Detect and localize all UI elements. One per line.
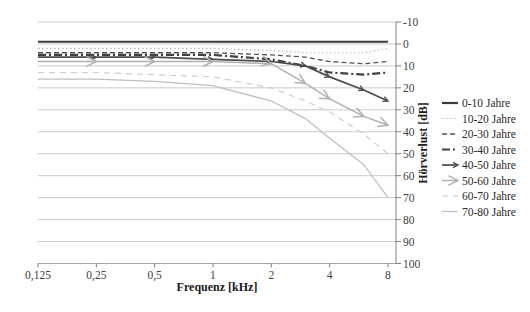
series-line-70-80-jahre — [38, 79, 388, 198]
x-axis-title: Frequenz [kHz] — [177, 280, 258, 294]
y-tick-label: 10 — [403, 60, 415, 72]
x-tick-label: 1 — [210, 269, 216, 281]
legend-item: 40-50 Jahre — [442, 159, 516, 171]
legend-label: 50-60 Jahre — [462, 175, 516, 187]
y-tick-label: 30 — [403, 104, 415, 116]
legend-label: 0-10 Jahre — [462, 97, 510, 109]
y-axis-title: Hörverlust [dB] — [416, 102, 430, 184]
x-tick-label: 8 — [385, 269, 391, 281]
legend-item: 0-10 Jahre — [442, 97, 510, 109]
legend-item: 70-80 Jahre — [442, 206, 516, 218]
series-line-50-60-jahre — [38, 62, 388, 126]
y-tick-label: 50 — [403, 148, 415, 160]
x-tick-label: 4 — [327, 269, 333, 281]
y-tick-label: 80 — [403, 214, 415, 226]
x-tick-label: 0,125 — [25, 269, 51, 282]
legend-item: 50-60 Jahre — [442, 175, 516, 187]
y-tick-label: 40 — [403, 126, 415, 138]
y-tick-label: 90 — [403, 236, 415, 248]
y-tick-label: 70 — [403, 192, 415, 204]
legend-label: 30-40 Jahre — [462, 144, 516, 156]
y-tick-label: 60 — [403, 170, 415, 182]
legend-label: 10-20 Jahre — [462, 113, 516, 125]
x-tick-label: 2 — [268, 269, 274, 281]
y-tick-label: 20 — [403, 82, 415, 94]
y-tick-label: 100 — [403, 258, 421, 270]
legend-item: 20-30 Jahre — [442, 128, 516, 140]
x-tick-label: 0,5 — [147, 269, 162, 282]
legend-label: 70-80 Jahre — [462, 206, 516, 218]
y-tick-label: -10 — [403, 16, 419, 28]
hearing-loss-chart: -1001020304050607080901000,1250,250,5124… — [0, 0, 530, 312]
series-line-10-20-jahre — [38, 48, 388, 52]
legend-label: 20-30 Jahre — [462, 128, 516, 140]
series-lines — [38, 42, 388, 198]
legend-item: 60-70 Jahre — [442, 190, 516, 202]
legend-label: 40-50 Jahre — [462, 159, 516, 171]
legend-label: 60-70 Jahre — [462, 190, 516, 202]
line-chart-svg: -1001020304050607080901000,1250,250,5124… — [0, 0, 530, 312]
legend-item: 10-20 Jahre — [442, 113, 516, 125]
gridlines — [38, 22, 396, 264]
y-tick-label: 0 — [403, 38, 409, 50]
x-tick-label: 0,25 — [86, 269, 106, 282]
legend: 0-10 Jahre10-20 Jahre20-30 Jahre30-40 Ja… — [442, 97, 516, 218]
series-line-60-70-jahre — [38, 72, 388, 153]
legend-item: 30-40 Jahre — [442, 144, 516, 156]
